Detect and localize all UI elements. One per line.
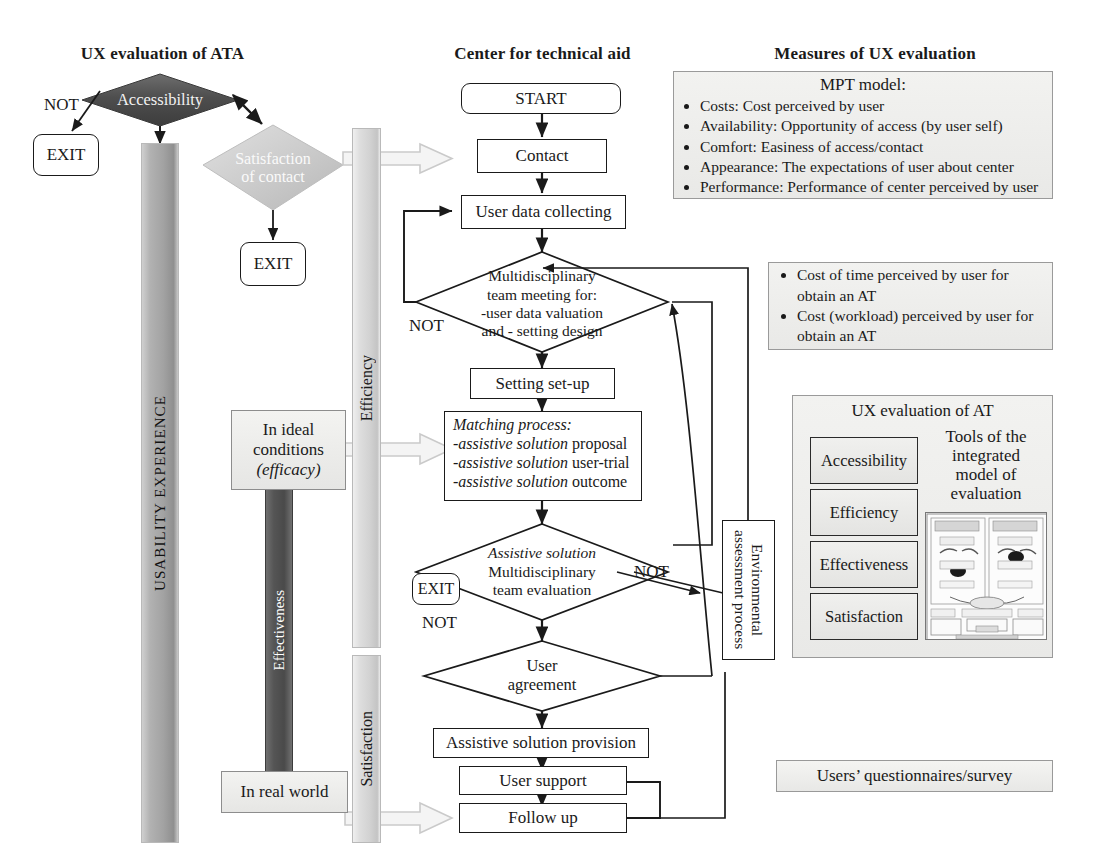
agreement-line2: agreement [508, 676, 577, 695]
cost-panel: Cost of time perceived by user for obtai… [768, 262, 1053, 350]
heading-left: UX evaluation of ATA [55, 44, 270, 64]
not-label-accessibility: NOT [44, 95, 79, 115]
mpt-item: Availability: Opportunity of access (by … [700, 116, 1046, 136]
multidisciplinary-label: Multidisciplinary team meeting for: -use… [416, 254, 668, 354]
heading-right: Measures of UX evaluation [730, 44, 1020, 64]
multi-line1: Multidisciplinary [488, 267, 596, 285]
exit-box-assistive[interactable]: EXIT [412, 573, 460, 605]
user-agreement-diamond[interactable]: User agreement [424, 641, 660, 711]
assistive-provision-box[interactable]: Assistive solution provision [433, 728, 649, 758]
mpt-item: Performance: Performance of center perce… [700, 177, 1046, 197]
loop-agreement-not-to-multi [672, 304, 712, 676]
mpt-item-list: Costs: Cost perceived by user Availabili… [674, 96, 1052, 197]
satisfaction-line1: Satisfaction [235, 150, 311, 168]
follow-up-box[interactable]: Follow up [459, 803, 627, 833]
environmental-assessment-box[interactable]: Environmentalassessment process [722, 520, 775, 660]
usability-experience-bar: USABILITY EXPERIENCE [141, 143, 179, 843]
matching-line-2-rest: user-trial [568, 454, 629, 471]
satisfaction-of-contact-label: Satisfaction of contact [203, 125, 343, 210]
not-label-agreement: NOT [422, 613, 457, 633]
cost-item: Cost (workload) perceived by user for ob… [797, 306, 1046, 347]
matching-title: Matching process: [453, 416, 572, 435]
satisfaction-bar-label: Satisfaction [358, 711, 376, 787]
effectiveness-label: Effectiveness [271, 590, 288, 671]
real-world-label: In real world [241, 782, 329, 802]
multidisciplinary-diamond[interactable]: Multidisciplinary team meeting for: -use… [416, 252, 668, 352]
multi-line2: team meeting for: [487, 286, 597, 304]
satisfaction-bar: Satisfaction [352, 655, 381, 843]
measure-satisfaction[interactable]: Satisfaction [810, 593, 918, 640]
exit-box-satisfaction[interactable]: EXIT [240, 242, 306, 286]
loop-assistive-not-rect [672, 302, 712, 545]
assistive-evaluation-label: Assistive solution Multidisciplinary tea… [416, 524, 668, 620]
ideal-line1: In ideal [263, 420, 314, 440]
mpt-item: Costs: Cost perceived by user [700, 96, 1046, 116]
matching-line-1-italic: -assistive solution [453, 435, 568, 452]
environmental-assessment-label: Environmentalassessment process [731, 530, 765, 649]
matching-line-2-italic: -assistive solution [453, 454, 568, 471]
agreement-line1: User [526, 657, 557, 676]
assistive-evaluation-diamond[interactable]: Assistive solution Multidisciplinary tea… [416, 524, 668, 620]
matching-line-1: -assistive solution proposal [453, 435, 627, 454]
tools-line2: integrated [925, 446, 1047, 465]
bracket-support-followup [627, 782, 660, 818]
assistive-eval-line2: Multidisciplinary [488, 563, 596, 582]
ideal-line3: (efficacy) [256, 460, 320, 480]
measure-effectiveness[interactable]: Effectiveness [810, 541, 918, 588]
tools-line1: Tools of the [925, 427, 1047, 446]
user-data-collecting-box[interactable]: User data collecting [461, 195, 626, 229]
contact-box[interactable]: Contact [477, 139, 607, 173]
accessibility-diamond[interactable]: Accessibility [82, 74, 238, 126]
cost-item: Cost of time perceived by user for obtai… [797, 265, 1046, 306]
matching-line-2: -assistive solution user-trial [453, 454, 630, 473]
tools-text: Tools of the integrated model of evaluat… [925, 427, 1047, 503]
effectiveness-bar: Effectiveness [265, 480, 293, 780]
matching-line-3-rest: outcome [568, 473, 627, 490]
matching-line-3: -assistive solution outcome [453, 473, 627, 492]
ux-evaluation-at-title: UX evaluation of AT [793, 401, 1052, 421]
exit-box-accessibility[interactable]: EXIT [33, 134, 99, 176]
setting-setup-box[interactable]: Setting set-up [470, 368, 615, 399]
user-support-box[interactable]: User support [459, 766, 627, 795]
cost-item-list: Cost of time perceived by user for obtai… [769, 265, 1052, 346]
mpt-item: Comfort: Easiness of access/contact [700, 137, 1046, 157]
usability-experience-label: USABILITY EXPERIENCE [152, 395, 169, 591]
assistive-eval-line1: Assistive solution [488, 544, 596, 563]
matching-line-3-italic: -assistive solution [453, 473, 568, 490]
real-world-box[interactable]: In real world [221, 771, 348, 813]
efficiency-label: Efficiency [358, 355, 376, 421]
mpt-item: Appearance: The expectations of user abo… [700, 157, 1046, 177]
start-box[interactable]: START [461, 83, 621, 114]
diagram-canvas: UX evaluation of ATA Center for technica… [0, 0, 1100, 853]
thumbnail-svg [926, 513, 1047, 640]
multi-line4: and - setting design [482, 322, 603, 340]
satisfaction-line2: of contact [241, 168, 305, 186]
not-label-multidisciplinary: NOT [409, 316, 444, 336]
tools-line4: evaluation [925, 484, 1047, 503]
survey-box[interactable]: Users’ questionnaires/survey [776, 760, 1053, 792]
tools-line3: model of [925, 465, 1047, 484]
satisfaction-of-contact-diamond[interactable]: Satisfaction of contact [203, 125, 343, 210]
integrated-model-thumbnail [925, 512, 1047, 640]
mpt-model-panel: MPT model: Costs: Cost perceived by user… [673, 71, 1053, 199]
multi-line3: -user data valuation [481, 304, 603, 322]
measure-efficiency[interactable]: Efficiency [810, 489, 918, 536]
loop-followup-to-environmental [660, 672, 725, 818]
mpt-title: MPT model: [674, 75, 1052, 95]
heading-center: Center for technical aid [430, 44, 655, 64]
ideal-line2: conditions [253, 440, 324, 460]
ideal-conditions-box[interactable]: In ideal conditions (efficacy) [231, 410, 346, 490]
measure-accessibility[interactable]: Accessibility [810, 437, 918, 484]
user-agreement-label: User agreement [424, 641, 660, 711]
efficiency-bar: Efficiency [352, 128, 381, 648]
matching-line-1-rest: proposal [568, 435, 627, 452]
matching-process-box[interactable]: Matching process: -assistive solution pr… [444, 411, 642, 501]
not-label-assistive: NOT [634, 562, 669, 582]
assistive-eval-line3: team evaluation [493, 581, 592, 600]
accessibility-label: Accessibility [82, 74, 238, 126]
